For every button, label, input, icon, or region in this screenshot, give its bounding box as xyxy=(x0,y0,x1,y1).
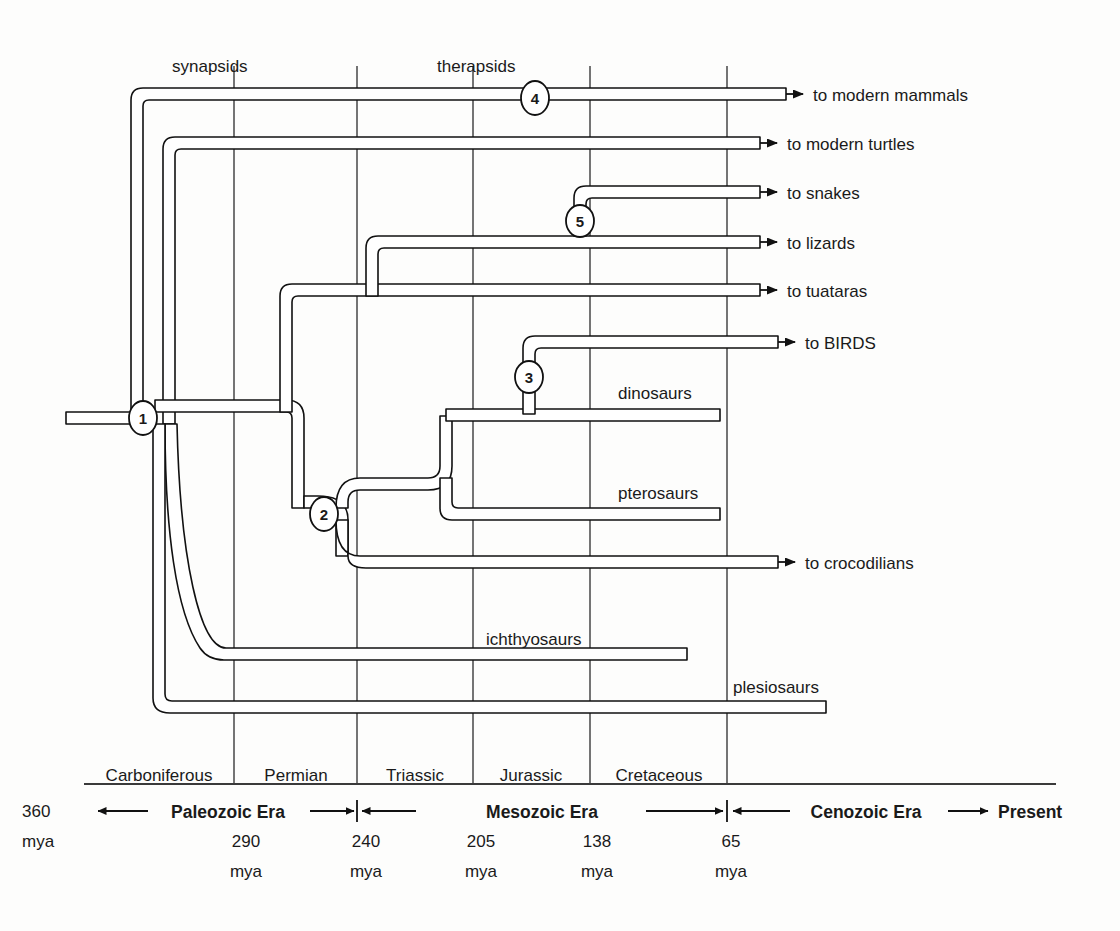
boundary-value-65: 65 xyxy=(722,832,741,851)
phylogeny-diagram: 1 2 3 4 5 to modern mammals to modern tu… xyxy=(0,0,1120,931)
boundary-labels: 290 mya 240 mya 205 mya 138 mya 65 mya xyxy=(230,832,748,881)
group-label-pterosaurs: pterosaurs xyxy=(618,484,698,503)
boundary-value-290: 290 xyxy=(232,832,260,851)
tip-label-birds: to BIRDS xyxy=(805,334,876,353)
group-label-plesiosaurs: plesiosaurs xyxy=(733,678,819,697)
era-axis: 360 mya Paleozoic Era Mesozoic Era Cenoz… xyxy=(22,800,1062,851)
boundary-value-205: 205 xyxy=(467,832,495,851)
axis-end-label: Present xyxy=(998,802,1062,822)
lineage-ichthyosaurs xyxy=(165,424,687,660)
figure-canvas: 1 2 3 4 5 to modern mammals to modern tu… xyxy=(0,0,1120,931)
tip-arrows xyxy=(760,94,803,562)
boundary-value-138: 138 xyxy=(583,832,611,851)
node-label-3: 3 xyxy=(525,369,533,386)
node-marker-2: 2 xyxy=(310,497,338,531)
period-row: Carboniferous Permian Triassic Jurassic … xyxy=(84,766,1056,785)
lineage-snakes xyxy=(574,186,760,236)
period-gridlines xyxy=(234,66,727,784)
period-label-cretaceous: Cretaceous xyxy=(616,766,703,785)
boundary-unit-205: mya xyxy=(465,862,498,881)
boundary-unit-240: mya xyxy=(350,862,383,881)
tip-labels: to modern mammals to modern turtles to s… xyxy=(787,86,968,573)
node-label-5: 5 xyxy=(576,213,584,230)
group-label-dinosaurs: dinosaurs xyxy=(618,384,692,403)
period-label-carboniferous: Carboniferous xyxy=(106,766,213,785)
tip-label-turtles: to modern turtles xyxy=(787,135,915,154)
tip-label-snakes: to snakes xyxy=(787,184,860,203)
era-label-paleozoic: Paleozoic Era xyxy=(171,802,285,822)
era-label-cenozoic: Cenozoic Era xyxy=(811,802,922,822)
lineage-ribbons xyxy=(66,88,826,713)
axis-start-value: 360 xyxy=(22,802,50,821)
lineage-turtles xyxy=(163,137,760,424)
era-label-mesozoic: Mesozoic Era xyxy=(486,802,598,822)
boundary-unit-138: mya xyxy=(581,862,614,881)
tip-label-crocodilians: to crocodilians xyxy=(805,554,914,573)
period-label-permian: Permian xyxy=(264,766,327,785)
node-marker-4: 4 xyxy=(521,81,549,115)
tip-label-mammals: to modern mammals xyxy=(813,86,968,105)
node-marker-1: 1 xyxy=(129,401,157,435)
top-label-therapsids: therapsids xyxy=(437,57,515,76)
axis-start-unit: mya xyxy=(22,832,55,851)
group-label-ichthyosaurs: ichthyosaurs xyxy=(486,630,581,649)
node-label-2: 2 xyxy=(320,506,328,523)
boundary-unit-290: mya xyxy=(230,862,263,881)
boundary-value-240: 240 xyxy=(352,832,380,851)
period-label-triassic: Triassic xyxy=(386,766,444,785)
node-label-4: 4 xyxy=(531,90,540,107)
tip-label-tuataras: to tuataras xyxy=(787,282,867,301)
tip-label-lizards: to lizards xyxy=(787,234,855,253)
lineage-ornithodiran-stem xyxy=(336,416,452,508)
top-labels: synapsids therapsids xyxy=(172,57,515,76)
top-label-synapsids: synapsids xyxy=(172,57,248,76)
node-marker-5: 5 xyxy=(566,205,594,237)
boundary-unit-65: mya xyxy=(715,862,748,881)
lineage-dinosaurs xyxy=(446,409,720,421)
period-label-jurassic: Jurassic xyxy=(500,766,563,785)
node-marker-3: 3 xyxy=(515,361,543,393)
node-label-1: 1 xyxy=(139,410,147,427)
lineage-crocodilians xyxy=(336,520,778,568)
